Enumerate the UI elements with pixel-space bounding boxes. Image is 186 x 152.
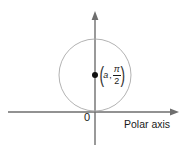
label-angle-denominator: 2 bbox=[113, 77, 120, 86]
horizontal-axis-group bbox=[8, 109, 179, 116]
polar-circle-figure: 0 Polar axis ( a , π 2 ) bbox=[0, 0, 186, 152]
horizontal-axis-arrowhead-icon bbox=[170, 109, 179, 116]
center-point-coordinate-label: ( a , π 2 ) bbox=[98, 61, 126, 89]
label-close-paren: ) bbox=[120, 64, 125, 86]
vertical-axis-arrowhead-icon bbox=[92, 11, 99, 20]
label-open-paren: ( bbox=[99, 64, 104, 86]
polar-axis-label: Polar axis bbox=[124, 119, 170, 130]
origin-label: 0 bbox=[84, 112, 90, 123]
